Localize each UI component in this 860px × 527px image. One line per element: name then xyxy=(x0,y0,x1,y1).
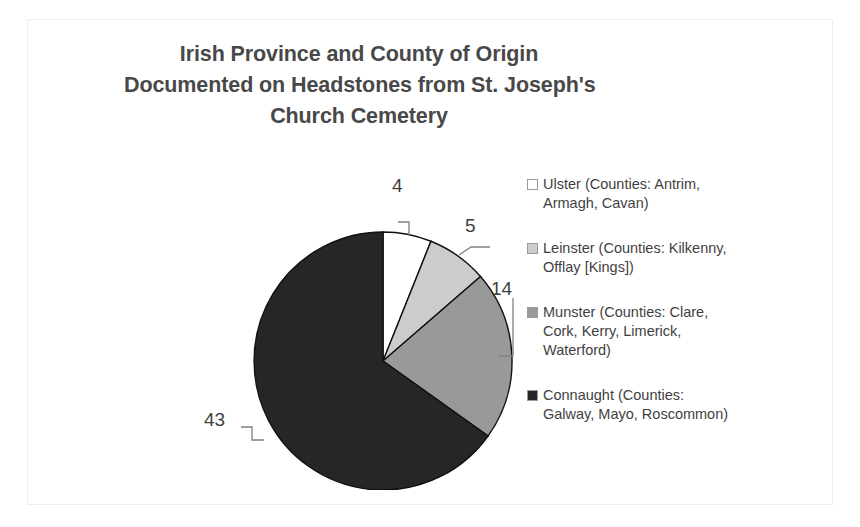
legend-swatch-leinster xyxy=(527,243,538,254)
legend-label-leinster-line-1: Leinster (Counties: Kilkenny, xyxy=(543,240,727,256)
legend-label-ulster-line-2: Armagh, Cavan) xyxy=(543,195,649,211)
legend-swatch-ulster xyxy=(527,179,538,190)
data-label-munster: 14 xyxy=(491,279,512,298)
legend-label-munster: Munster (Counties: Clare, Cork, Kerry, L… xyxy=(543,303,708,360)
data-label-ulster: 4 xyxy=(392,176,403,195)
data-label-connaught: 43 xyxy=(204,410,225,429)
leader-line-connaught xyxy=(241,427,264,440)
legend-label-munster-line-1: Munster (Counties: Clare, xyxy=(543,304,708,320)
legend-item-munster[interactable]: Munster (Counties: Clare, Cork, Kerry, L… xyxy=(527,303,827,360)
legend-label-ulster: Ulster (Counties: Antrim, Armagh, Cavan) xyxy=(543,175,700,213)
legend-label-leinster: Leinster (Counties: Kilkenny, Offlay [Ki… xyxy=(543,239,727,277)
data-label-leinster: 5 xyxy=(465,216,476,235)
pie-chart xyxy=(168,150,548,490)
legend-swatch-connaught xyxy=(527,390,538,401)
plot-area: 4 5 14 43 Ulster (Counties: Antrim, Arma… xyxy=(28,20,834,506)
legend-label-leinster-line-2: Offlay [Kings]) xyxy=(543,259,634,275)
legend-label-connaught-line-1: Connaught (Counties: xyxy=(543,387,684,403)
leader-line-leinster xyxy=(459,247,490,255)
legend-label-munster-line-2: Cork, Kerry, Limerick, xyxy=(543,323,681,339)
legend-label-munster-line-3: Waterford) xyxy=(543,342,611,358)
legend-item-connaught[interactable]: Connaught (Counties: Galway, Mayo, Rosco… xyxy=(527,386,827,424)
legend-item-ulster[interactable]: Ulster (Counties: Antrim, Armagh, Cavan) xyxy=(527,175,827,213)
legend-item-leinster[interactable]: Leinster (Counties: Kilkenny, Offlay [Ki… xyxy=(527,239,827,277)
chart-legend: Ulster (Counties: Antrim, Armagh, Cavan)… xyxy=(527,175,827,450)
legend-label-connaught-line-2: Galway, Mayo, Roscommon) xyxy=(543,406,728,422)
legend-swatch-munster xyxy=(527,307,538,318)
legend-label-ulster-line-1: Ulster (Counties: Antrim, xyxy=(543,176,700,192)
legend-label-connaught: Connaught (Counties: Galway, Mayo, Rosco… xyxy=(543,386,728,424)
chart-frame: Irish Province and County of Origin Docu… xyxy=(27,19,833,505)
